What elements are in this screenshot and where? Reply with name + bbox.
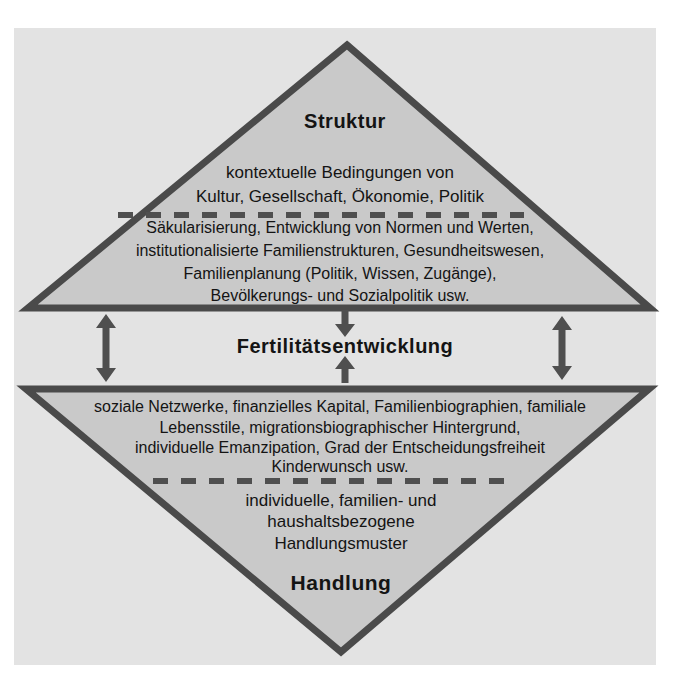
top-context-line: Kultur, Gesellschaft, Ökonomie, Politik (196, 187, 485, 206)
top-context-line: kontextuelle Bedingungen von (226, 163, 454, 182)
top-detail-line: institutionalisierte Familienstrukturen,… (136, 242, 544, 259)
bottom-detail-line: individuelle Emanzipation, Grad der Ents… (135, 439, 546, 456)
struktur-heading: Struktur (304, 110, 386, 132)
bottom-context-line: Handlungsmuster (274, 534, 408, 553)
handlung-heading: Handlung (291, 571, 392, 594)
top-detail-line: Familienplanung (Politik, Wissen, Zugäng… (183, 265, 496, 282)
bottom-detail-line: Kinderwunsch usw. (272, 458, 409, 475)
top-detail-line: Bevölkerungs- und Sozialpolitik usw. (211, 287, 470, 304)
bottom-detail-line: soziale Netzwerke, finanzielles Kapital,… (94, 398, 586, 415)
top-detail-line: Säkularisierung, Entwicklung von Normen … (146, 219, 533, 236)
bottom-context-line: individuelle, familien- und (246, 491, 437, 510)
diagram-stage: Struktur kontextuelle Bedingungen von Ku… (0, 0, 679, 681)
bottom-detail-line: Lebensstile, migrationsbiographischer Hi… (159, 419, 520, 436)
struktur-handlung-diagram: Struktur kontextuelle Bedingungen von Ku… (0, 0, 679, 681)
bottom-context-line: haushaltsbezogene (267, 512, 414, 531)
fertility-label: Fertilitätsentwicklung (237, 335, 454, 357)
